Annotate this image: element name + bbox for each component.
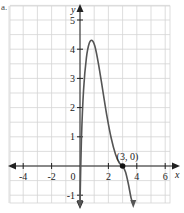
y-tick-label: -1 [67,190,75,201]
y-axis-label: y [70,4,76,15]
point-label: (3, 0) [117,151,139,163]
point-marker [120,163,126,169]
x-tick-label: 0 [71,171,76,182]
x-tick-label: -4 [19,171,27,182]
function-graph: xy -4-20246-112345 (3, 0) a. [0,0,184,213]
y-tick-label: 2 [70,102,75,113]
curve-right-arrow-icon [130,200,136,208]
y-tick-label: 4 [70,44,75,55]
grid [9,5,170,203]
x-axis-label: x [174,169,180,180]
x-tick-label: 6 [163,171,168,182]
x-tick-label: 4 [134,171,139,182]
y-tick-label: 5 [70,15,75,26]
y-tick-label: 3 [70,73,75,84]
x-tick-label: 2 [106,171,111,182]
y-tick-label: 1 [70,131,75,142]
corner-label: a. [1,2,7,12]
x-tick-label: -2 [47,171,55,182]
